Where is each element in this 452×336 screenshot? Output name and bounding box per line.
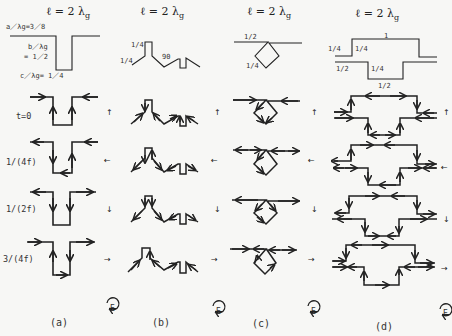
rotation-icon-d <box>440 304 452 316</box>
mode-c-row0 <box>233 100 300 124</box>
rotation-icon-b <box>213 301 225 313</box>
diagram-linework <box>0 0 452 336</box>
mode-d-row3 <box>332 245 435 285</box>
mode-b-row2 <box>131 196 198 224</box>
geometry-a <box>10 36 100 70</box>
mode-b-row0 <box>131 100 198 126</box>
mode-b-row1 <box>131 148 198 174</box>
mode-d-row0 <box>334 96 437 135</box>
rotation-icon-c <box>308 301 320 313</box>
mode-a-row0 <box>30 97 98 125</box>
mode-a-row1 <box>30 142 98 173</box>
mode-a-row2 <box>30 192 96 225</box>
geometry-c <box>234 42 302 68</box>
mode-d-row2 <box>332 196 437 236</box>
mode-c-row2 <box>232 200 300 224</box>
rotation-icon-a <box>107 298 119 310</box>
mode-d-row1 <box>332 145 437 185</box>
mode-b-row3 <box>128 248 198 273</box>
mode-c-row1 <box>233 150 300 175</box>
geometry-d <box>335 39 437 79</box>
mode-a-row3 <box>27 242 95 275</box>
mode-c-row3 <box>230 249 297 274</box>
geometry-b <box>132 42 200 68</box>
